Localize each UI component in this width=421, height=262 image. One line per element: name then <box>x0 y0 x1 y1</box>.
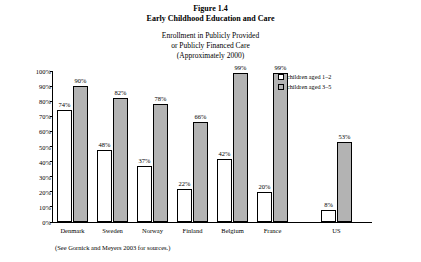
legend-item-1: children aged 3–5 <box>278 82 368 91</box>
bar <box>321 210 336 222</box>
bar <box>193 122 208 222</box>
figure-number: Figure 1.4 <box>0 4 421 14</box>
x-axis-label: US <box>313 227 360 235</box>
legend-label-0: children aged 1–2 <box>287 72 331 81</box>
bar <box>337 142 352 222</box>
y-tick-mark <box>50 161 53 162</box>
bar <box>177 189 192 222</box>
subtitle-line-2: or Publicly Financed Care <box>0 41 421 51</box>
y-tick-mark <box>50 131 53 132</box>
chart-legend: children aged 1–2 children aged 3–5 <box>278 72 368 92</box>
source-note: (See Gornick and Meyers 2003 for sources… <box>55 244 170 252</box>
legend-swatch-dark-icon <box>278 84 284 90</box>
y-tick-mark <box>50 86 53 87</box>
bar <box>137 166 152 222</box>
bar-value-label: 99% <box>229 64 252 71</box>
bar <box>73 86 88 222</box>
bar-value-label: 82% <box>109 89 132 96</box>
plot-area: 0%10%20%30%40%50%60%70%80%90%100%74%90%D… <box>52 71 372 223</box>
y-tick-label: 100% <box>36 68 51 75</box>
bar <box>217 159 232 222</box>
subtitle-line-1: Enrollment in Publicly Provided <box>0 31 421 41</box>
bar-value-label: 53% <box>333 133 356 140</box>
bar-value-label: 78% <box>149 95 172 102</box>
bar-value-label: 66% <box>189 113 212 120</box>
y-tick-mark <box>50 71 53 72</box>
y-tick-mark <box>50 146 53 147</box>
figure-container: Figure 1.4 Early Childhood Education and… <box>0 0 421 262</box>
bar <box>57 110 72 222</box>
legend-swatch-light-icon <box>278 74 284 80</box>
bar <box>257 192 272 222</box>
y-tick-mark <box>50 191 53 192</box>
subtitle-line-3: (Approximately 2000) <box>0 51 421 61</box>
y-tick-mark <box>50 176 53 177</box>
y-tick-mark <box>50 116 53 117</box>
bar-value-label: 99% <box>269 64 292 71</box>
y-tick-mark <box>50 222 53 223</box>
x-axis-label: France <box>249 227 296 235</box>
bar <box>273 73 288 222</box>
bar <box>113 98 128 222</box>
bar-value-label: 90% <box>69 77 92 84</box>
legend-label-1: children aged 3–5 <box>287 82 331 91</box>
figure-title: Early Childhood Education and Care <box>0 14 421 24</box>
bar <box>153 104 168 222</box>
bar <box>97 150 112 222</box>
figure-title-block: Figure 1.4 Early Childhood Education and… <box>0 4 421 24</box>
bar <box>233 73 248 222</box>
y-tick-mark <box>50 206 53 207</box>
legend-item-0: children aged 1–2 <box>278 72 368 81</box>
figure-subtitle-block: Enrollment in Publicly Provided or Publi… <box>0 31 421 61</box>
